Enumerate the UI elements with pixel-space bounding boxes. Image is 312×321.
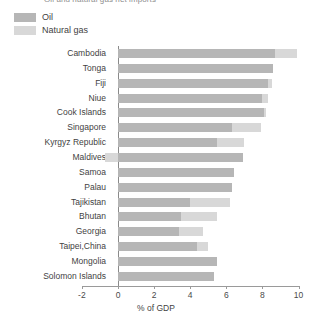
bar-segment-oil	[118, 138, 217, 147]
bar-segment-natural-gas	[232, 123, 261, 132]
axis-tick-mark	[262, 286, 263, 289]
legend-label-natural-gas: Natural gas	[42, 26, 88, 35]
axis-tick-mark	[82, 286, 83, 289]
bar-segment-oil	[118, 227, 179, 236]
axis-tick-label: -2	[78, 290, 86, 300]
bar-segment-natural-gas	[181, 212, 217, 221]
bar-segment-natural-gas	[190, 198, 230, 207]
plot-area: CambodiaTongaFijiNiueCook IslandsSingapo…	[0, 46, 312, 286]
axis-tick-label: 4	[188, 290, 193, 300]
bar-segment-natural-gas-negative	[105, 153, 118, 162]
bar-segment-oil	[118, 108, 264, 117]
bar-segment-oil	[118, 212, 181, 221]
bar-segment-oil	[118, 272, 214, 281]
legend-label-oil: Oil	[42, 13, 53, 22]
bar-segment-oil	[118, 153, 243, 162]
bar-segment-oil	[118, 183, 232, 192]
chart-legend: Oil Natural gas	[14, 11, 88, 37]
axis-tick-label: 8	[260, 290, 265, 300]
axis-tick-label: 2	[152, 290, 157, 300]
x-axis-title: % of GDP	[0, 303, 312, 313]
axis-tick-label: 10	[294, 290, 303, 300]
axis-tick-label: 6	[224, 290, 229, 300]
axis-tick-mark	[118, 286, 119, 289]
bar-segment-natural-gas	[197, 242, 208, 251]
bar-segment-natural-gas	[275, 49, 297, 58]
bar-segment-natural-gas	[217, 138, 244, 147]
x-axis: -20246810 % of GDP	[0, 286, 312, 321]
axis-tick-label: 0	[116, 290, 121, 300]
chart-root: Oil and natural gas net imports Oil Natu…	[0, 0, 312, 321]
bars-container	[0, 46, 312, 286]
axis-tick-mark	[299, 286, 300, 289]
bar-segment-oil	[118, 79, 268, 88]
axis-tick-mark	[154, 286, 155, 289]
legend-swatch-natural-gas-icon	[14, 26, 36, 35]
bar-segment-oil	[118, 257, 217, 266]
bar-segment-oil	[118, 168, 234, 177]
legend-item-oil: Oil	[14, 11, 88, 24]
bar-segment-oil	[118, 49, 275, 58]
chart-title-clipped: Oil and natural gas net imports	[0, 0, 312, 9]
legend-item-natural-gas: Natural gas	[14, 24, 88, 37]
bar-segment-oil	[118, 198, 190, 207]
bar-segment-natural-gas	[268, 79, 273, 88]
legend-swatch-oil-icon	[14, 13, 36, 22]
chart-title-text: Oil and natural gas net imports	[44, 0, 156, 4]
bar-segment-natural-gas	[264, 108, 266, 117]
bar-segment-oil	[118, 123, 232, 132]
bar-segment-natural-gas	[262, 94, 267, 103]
axis-tick-mark	[226, 286, 227, 289]
bar-segment-oil	[118, 94, 262, 103]
axis-tick-mark	[190, 286, 191, 289]
bar-segment-oil	[118, 242, 197, 251]
bar-segment-natural-gas	[179, 227, 202, 236]
bar-segment-oil	[118, 64, 273, 73]
